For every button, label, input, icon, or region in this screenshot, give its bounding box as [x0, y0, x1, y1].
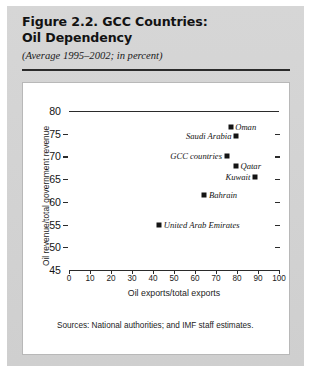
x-tick-label: 50 — [169, 274, 178, 283]
y-tick-left — [63, 156, 68, 157]
x-tick-label: 20 — [106, 274, 115, 283]
data-point-marker — [157, 223, 162, 228]
data-point-label: Bahrain — [209, 190, 237, 200]
y-axis-title: Oil revenue/total government revenue — [41, 121, 51, 271]
figure-title-line-1: Figure 2.2. GCC Countries: — [22, 14, 290, 30]
data-point-marker — [252, 174, 257, 179]
chart-card: 0102030405060708090100 4550556065707580 … — [22, 82, 290, 355]
y-tick-right — [275, 134, 280, 135]
x-tick-label: 100 — [272, 274, 286, 283]
figure-page: Figure 2.2. GCC Countries: Oil Dependenc… — [0, 0, 311, 376]
figure-subtitle: (Average 1995–2002; in percent) — [22, 50, 290, 62]
y-tick-left — [63, 225, 68, 226]
data-point-label: Qatar — [240, 161, 261, 171]
data-point-marker — [233, 133, 238, 138]
y-tick-label: 80 — [37, 105, 61, 117]
y-tick-left — [63, 134, 68, 135]
x-tick-label: 10 — [85, 274, 94, 283]
y-tick-left — [63, 179, 68, 180]
data-point-marker — [202, 193, 207, 198]
figure-heading: Figure 2.2. GCC Countries: Oil Dependenc… — [22, 14, 290, 62]
plot-top-rule — [69, 111, 279, 112]
data-point-label: GCC countries — [170, 151, 222, 161]
data-point-marker — [224, 154, 229, 159]
x-axis-title: Oil exports/total exports — [69, 288, 279, 298]
x-tick-label: 0 — [67, 274, 72, 283]
scatter-plot: 0102030405060708090100 4550556065707580 … — [23, 83, 291, 356]
title-divider — [22, 69, 290, 71]
data-point-label: Saudi Arabia — [186, 131, 231, 141]
y-tick-right — [275, 247, 280, 248]
data-point-label: Oman — [235, 122, 256, 132]
y-tick-right — [275, 179, 280, 180]
y-tick-right — [275, 225, 280, 226]
data-point-label: United Arab Emirates — [164, 220, 240, 230]
data-point-marker — [228, 124, 233, 129]
x-tick-label: 60 — [190, 274, 199, 283]
data-point-label: Kuwait — [226, 172, 251, 182]
y-tick-right — [275, 202, 280, 203]
sources-note: Sources: National authorities; and IMF s… — [57, 321, 287, 330]
data-point-marker — [233, 164, 238, 169]
figure-title-line-2: Oil Dependency — [22, 30, 290, 46]
y-tick-right — [275, 156, 280, 157]
x-tick-label: 90 — [253, 274, 262, 283]
x-tick-label: 40 — [148, 274, 157, 283]
x-tick-label: 70 — [211, 274, 220, 283]
x-tick-label: 80 — [232, 274, 241, 283]
y-tick-left — [63, 202, 68, 203]
x-tick-label: 30 — [127, 274, 136, 283]
y-tick-left — [63, 247, 68, 248]
